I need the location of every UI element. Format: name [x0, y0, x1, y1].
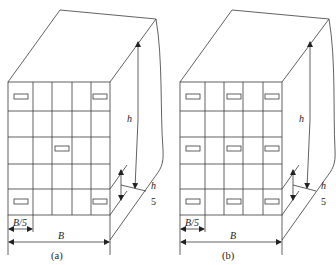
height-label: h — [299, 113, 304, 124]
window — [186, 146, 200, 151]
window — [93, 94, 107, 99]
building-outline — [8, 10, 163, 240]
windows — [14, 94, 107, 204]
window — [265, 146, 279, 151]
window — [265, 199, 279, 204]
window — [227, 146, 241, 151]
height-label: h — [127, 113, 132, 124]
floor-height-dimension: h 5 — [282, 165, 326, 215]
window — [186, 199, 200, 204]
caption-a: (a) — [51, 250, 63, 262]
floor-height-label-den: 5 — [321, 196, 326, 207]
caption-b: (b) — [222, 250, 235, 262]
window — [93, 199, 107, 204]
height-dimension: h — [299, 42, 310, 188]
column-width-label: B/5 — [185, 217, 199, 228]
building-outline — [180, 10, 335, 240]
window — [186, 94, 200, 99]
floor-height-label-num: h — [321, 180, 326, 191]
window — [14, 94, 28, 99]
width-dimension: B/5 B — [180, 215, 282, 255]
window — [265, 94, 279, 99]
window — [55, 146, 69, 151]
diagram-a: h 5 h B/5 B (a) — [8, 10, 163, 262]
diagram-b: h 5 h B/5 B (b) — [180, 10, 335, 262]
height-dimension: h — [127, 42, 138, 188]
windows — [186, 94, 279, 204]
window — [14, 199, 28, 204]
column-width-label: B/5 — [13, 217, 27, 228]
building-diagrams: h 5 h B/5 B (a) — [0, 0, 336, 265]
window — [227, 94, 241, 99]
floor-height-label-num: h — [151, 180, 156, 191]
floor-height-label-den: 5 — [151, 196, 156, 207]
width-dimension: B/5 B — [8, 215, 110, 255]
window — [227, 199, 241, 204]
width-label: B — [58, 230, 64, 241]
width-label: B — [230, 230, 236, 241]
